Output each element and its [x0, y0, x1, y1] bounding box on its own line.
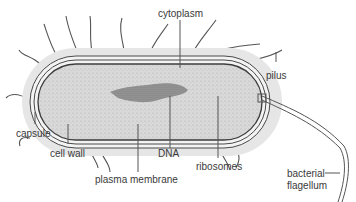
label-cytoplasm: cytoplasm — [158, 8, 203, 19]
label-flagellum-2: flagellum — [287, 180, 327, 191]
label-pilus: pilus — [266, 70, 287, 81]
cytoplasm-shape — [38, 64, 262, 140]
label-plasma-membrane: plasma membrane — [95, 174, 178, 185]
label-dna: DNA — [158, 148, 179, 159]
label-flagellum-1: bacterial — [287, 168, 325, 179]
label-ribosomes: ribosomes — [196, 161, 242, 172]
bacterial-cell-diagram: cytoplasm pilus capsule cell wall DNA ri… — [0, 0, 356, 202]
label-capsule: capsule — [16, 128, 50, 139]
label-cell-wall: cell wall — [50, 148, 85, 159]
